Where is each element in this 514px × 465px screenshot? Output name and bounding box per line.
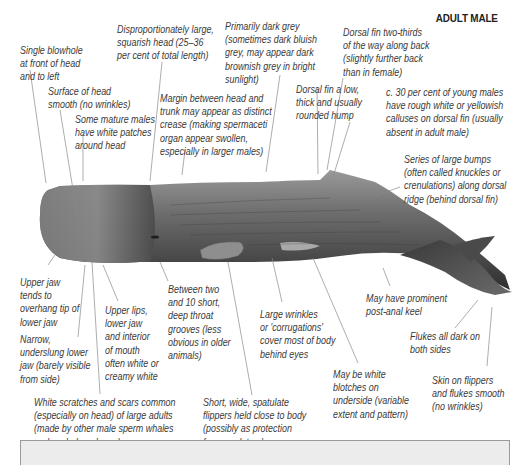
label-blotches: May be white blotches on underside (vari… bbox=[333, 368, 409, 421]
label-dorsal-position: Dorsal fin two-thirds of the way along b… bbox=[343, 26, 429, 79]
label-lips: Upper lips, lower jaw and interior of mo… bbox=[105, 304, 159, 383]
label-colour: Primarily dark grey (sometimes dark blui… bbox=[225, 20, 317, 86]
label-white-patches: Some mature males have white patches aro… bbox=[75, 113, 155, 153]
label-calluses: c. 30 per cent of young males have rough… bbox=[386, 86, 503, 139]
label-lower-jaw: Narrow, underslung lower jaw (barely vis… bbox=[20, 333, 91, 386]
whale-head bbox=[40, 185, 155, 263]
label-head-surface: Surface of head smooth (no wrinkles) bbox=[48, 85, 130, 111]
label-flukes-dark: Flukes all dark on both sides bbox=[410, 330, 480, 356]
label-knuckles: Series of large bumps (often called knuc… bbox=[404, 153, 506, 206]
label-wrinkles: Large wrinkles or 'corrugations' cover m… bbox=[260, 308, 336, 361]
label-throat-grooves: Between two and 10 short, deep throat gr… bbox=[168, 283, 231, 362]
label-skin-smooth: Skin on flippers and flukes smooth (no w… bbox=[432, 374, 505, 414]
label-large-head: Disproportionately large, squarish head … bbox=[117, 23, 214, 63]
label-margin: Margin between head and trunk may appear… bbox=[160, 92, 272, 158]
label-blowhole: Single blowhole at front of head and to … bbox=[20, 44, 83, 84]
label-dorsal-hump: Dorsal fin a low, thick and usually roun… bbox=[296, 83, 362, 123]
label-keel: May have prominent post-anal keel bbox=[366, 292, 447, 318]
footer-box bbox=[20, 440, 510, 465]
whale-eye bbox=[151, 236, 159, 239]
label-upper-jaw: Upper jaw tends to overhang tip of lower… bbox=[20, 276, 79, 329]
